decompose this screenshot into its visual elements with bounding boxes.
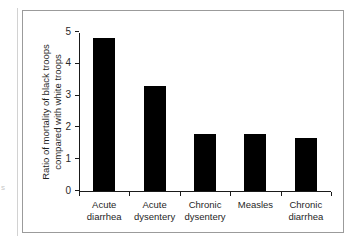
x-axis-label: Acutedysentery [129, 199, 179, 223]
y-axis-tick-label: 5 [65, 27, 71, 37]
bar-series [79, 31, 331, 192]
page-margin-rule [17, 8, 18, 236]
x-axis-tick [129, 192, 130, 196]
x-axis-label: Measles [230, 199, 280, 223]
y-axis-tick-label: 0 [65, 186, 71, 196]
y-axis-tick-label: 4 [65, 58, 71, 68]
y-axis-label-container: Ratio of mortality of black troops compa… [41, 31, 63, 192]
x-axis-label-line: diarrhea [79, 211, 129, 223]
x-axis-tick [331, 192, 332, 196]
x-axis-label-line: dysentery [180, 211, 230, 223]
x-axis-tick [79, 192, 80, 196]
x-axis-label: Acutediarrhea [79, 199, 129, 223]
bar [244, 134, 266, 191]
page-margin-artifact: s [1, 182, 7, 194]
x-axis-label-line: dysentery [129, 211, 179, 223]
x-axis-label: Chronicdysentery [180, 199, 230, 223]
x-axis-label-line: Chronic [281, 199, 331, 211]
y-axis-label: Ratio of mortality of black troops compa… [40, 32, 64, 192]
x-axis-tick [281, 192, 282, 196]
x-axis-labels: AcutediarrheaAcutedysenteryChronicdysent… [79, 199, 331, 223]
x-axis-label-line: diarrhea [281, 211, 331, 223]
plot-area: 012345 AcutediarrheaAcutedysenteryChroni… [79, 31, 331, 192]
x-axis-label-line: Acute [129, 199, 179, 211]
figure-frame: Ratio of mortality of black troops compa… [22, 10, 344, 233]
bar [295, 138, 317, 191]
x-axis-label-line: Acute [79, 199, 129, 211]
x-axis-label: Chronicdiarrhea [281, 199, 331, 223]
x-axis-tick [180, 192, 181, 196]
x-axis-label-line: Measles [230, 199, 280, 211]
bar [194, 134, 216, 191]
figure-root: s Ratio of mortality of black troops com… [0, 0, 353, 243]
bar [144, 86, 166, 191]
y-axis-tick-label: 1 [65, 154, 71, 164]
bar [93, 38, 115, 191]
y-axis-tick-label: 3 [65, 90, 71, 100]
x-axis-tick [230, 192, 231, 196]
y-axis-tick-label: 2 [65, 122, 71, 132]
x-axis-label-line: Chronic [180, 199, 230, 211]
